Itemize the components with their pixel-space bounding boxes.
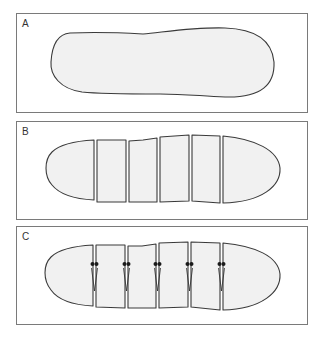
segment-5 [191,242,220,310]
panel-c-label: C [22,231,29,242]
segment-4 [160,135,189,202]
segment-3 [128,244,156,308]
panel-a-label: A [22,18,29,29]
segment-2 [96,245,125,308]
panel-a: A [17,14,308,113]
segment-4 [159,242,188,308]
body-outline [51,28,274,97]
panel-b-label: B [22,126,29,137]
segment-2 [97,140,126,202]
panel-b: B [17,122,308,220]
figure: A B C [0,0,321,340]
segment-3 [129,138,157,202]
panel-c: C [17,227,308,325]
segment-5 [192,135,220,203]
